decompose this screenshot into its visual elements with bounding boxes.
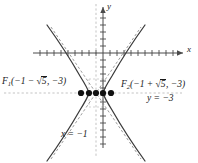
focus-2-label: F2(−1 + √5, −3)	[121, 79, 185, 91]
y-axis-arrow-icon	[100, 7, 105, 13]
point-focus-2	[108, 90, 114, 96]
point-center	[93, 90, 99, 96]
focus-2-close-paren: )	[182, 79, 185, 89]
focus-2-part1: −1 +	[133, 79, 153, 89]
x-axis-label: x	[187, 45, 191, 54]
point-focus-1	[78, 90, 84, 96]
y-axis-label: y	[107, 2, 111, 11]
plotted-points	[78, 90, 114, 96]
focus-1-close-paren: )	[63, 76, 66, 86]
focus-1-label: F1(−1 − √5, −3)	[2, 76, 66, 88]
focus-1-part2: , −3	[47, 76, 63, 86]
x-axis-arrow-icon	[177, 50, 183, 55]
point-vertex-right	[100, 90, 106, 96]
vertical-line-label: x = −1	[61, 130, 88, 140]
hyperbola-figure: F1(−1 − √5, −3) F2(−1 + √5, −3) y = −3 x…	[0, 0, 198, 163]
horizontal-line-label: y = −3	[147, 94, 174, 104]
focus-2-part2: , −3	[166, 79, 182, 89]
focus-1-part1: −1 −	[14, 76, 34, 86]
point-vertex-left	[86, 90, 92, 96]
